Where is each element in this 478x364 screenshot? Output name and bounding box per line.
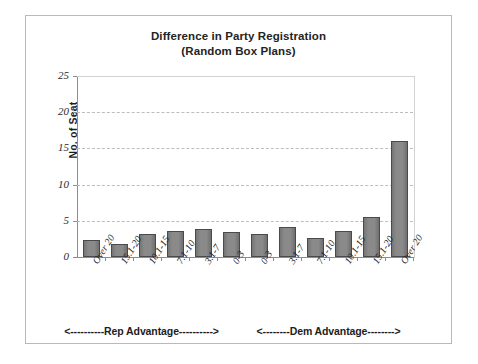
chart-title-block: Difference in Party Registration (Random…	[25, 15, 452, 59]
chart-title: Difference in Party Registration	[25, 29, 452, 44]
bar-slot	[217, 76, 245, 257]
dem-advantage-label: <--------Dem Advantage-------->	[235, 325, 422, 337]
bar-slot	[77, 76, 105, 257]
bar-slot	[329, 76, 357, 257]
bar-slot	[245, 76, 273, 257]
y-axis-tick-label: 5	[33, 214, 69, 226]
chart-screenshot: Difference in Party Registration (Random…	[0, 0, 478, 364]
bar-slot	[105, 76, 133, 257]
bar-slot	[301, 76, 329, 257]
bar-slot	[385, 76, 413, 257]
y-axis-tick-label: 15	[33, 141, 69, 153]
y-axis-tick-label: 10	[33, 178, 69, 190]
y-axis-tick-label: 20	[33, 105, 69, 117]
bar-slot	[189, 76, 217, 257]
rep-advantage-label: <----------Rep Advantage---------->	[48, 325, 235, 337]
bar-slot	[273, 76, 301, 257]
y-axis-tick-label: 0	[33, 250, 69, 262]
bar-slot	[357, 76, 385, 257]
x-axis-labels-group: Over 2015.1-2010.1-157.1-103.1-70-30-33.…	[77, 260, 413, 318]
y-axis-tick-mark	[73, 257, 77, 258]
bar-slot	[133, 76, 161, 257]
bars-group	[77, 76, 413, 257]
x-axis-tick-mark	[413, 257, 414, 261]
y-axis-tick-label: 25	[33, 69, 69, 81]
bar-slot	[161, 76, 189, 257]
advantage-annotations: <----------Rep Advantage----------> <---…	[48, 322, 422, 340]
chart-subtitle: (Random Box Plans)	[25, 44, 452, 59]
